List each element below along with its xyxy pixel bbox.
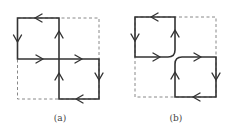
panel-label-b: (b) bbox=[170, 113, 183, 123]
loop-bottom-right-a bbox=[59, 59, 99, 99]
panel-a: (a) bbox=[14, 14, 104, 123]
panel-b: (b) bbox=[131, 13, 220, 123]
loop-bottom-right-b bbox=[175, 57, 216, 97]
panel-label-a: (a) bbox=[54, 113, 66, 123]
loop-top-left-a bbox=[18, 18, 60, 59]
loop-top-left-b bbox=[135, 17, 175, 57]
figure-canvas: (a) (b) bbox=[0, 0, 229, 135]
